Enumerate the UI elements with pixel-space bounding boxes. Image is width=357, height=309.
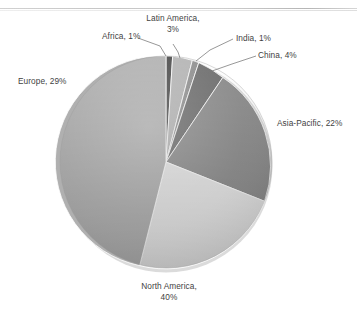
pie-chart-svg — [0, 0, 357, 309]
slice-label-africa: Africa, 1% — [102, 31, 140, 42]
leader-line-india — [196, 39, 233, 61]
slice-label-north-america-line2: 40% — [161, 292, 178, 302]
slice-label-latin-america: Latin America, 3% — [136, 13, 210, 34]
slice-label-latin-america-line2: 3% — [167, 24, 179, 34]
slice-label-china: China, 4% — [258, 50, 297, 61]
leader-line-china — [212, 56, 256, 71]
slice-label-europe: Europe, 29% — [18, 76, 67, 87]
slice-label-india: India, 1% — [236, 33, 271, 44]
pie-chart-figure: Africa, 1% Latin America, 3% India, 1% C… — [0, 0, 357, 309]
page-rule-top-secondary — [0, 10, 357, 11]
pie-rim-shading — [60, 56, 272, 268]
slice-label-latin-america-line1: Latin America, — [146, 13, 199, 23]
leader-line-africa — [138, 38, 166, 56]
slice-label-asia-pacific: Asia-Pacific, 22% — [277, 118, 342, 129]
page-rule-top — [0, 8, 357, 9]
slice-label-north-america-line1: North America, — [141, 281, 197, 291]
leader-line-latin-america — [173, 44, 180, 58]
slice-label-north-america: North America, 40% — [114, 281, 224, 302]
